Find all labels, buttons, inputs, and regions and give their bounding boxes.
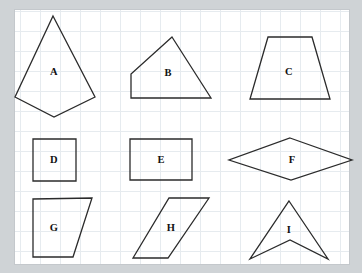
shape-label-c: C — [285, 67, 293, 78]
shape-label-e: E — [157, 155, 164, 166]
shape-label-f: F — [289, 155, 296, 166]
shape-label-i: I — [287, 225, 291, 236]
shape-label-b: B — [164, 68, 171, 79]
shape-label-g: G — [50, 223, 58, 234]
worksheet-canvas: A B C D E F G H I — [0, 0, 362, 273]
worksheet-page — [14, 9, 350, 265]
grid-background — [15, 10, 349, 264]
shape-label-d: D — [50, 155, 58, 166]
shape-label-h: H — [167, 223, 175, 234]
shape-label-a: A — [50, 67, 58, 78]
